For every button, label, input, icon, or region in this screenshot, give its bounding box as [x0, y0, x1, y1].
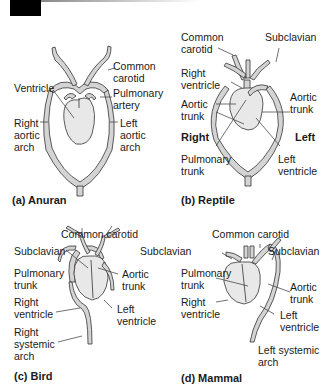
label-anuran-ventricle: Ventricle — [14, 82, 54, 94]
caption-bird: (c) Bird — [14, 370, 53, 382]
label-reptile-right-ventricle: Right ventricle — [181, 67, 220, 91]
label-anuran-common-carotid: Common carotid — [113, 60, 156, 84]
caption-mammal: (d) Mammal — [181, 372, 242, 384]
label-anuran-right-aortic-arch: Right aortic arch — [14, 117, 40, 153]
label-mammal-subclavian: Subclavian — [268, 245, 319, 257]
label-mammal-left-systemic-arch: Left systemic arch — [258, 344, 319, 368]
label-mammal-pulmonary-trunk: Pulmonary trunk — [181, 267, 231, 291]
label-anuran-pulmonary-artery: Pulmonary artery — [113, 87, 163, 111]
label-reptile-common-carotid: Common carotid — [181, 31, 224, 55]
label-mammal-aortic-trunk: Aortic trunk — [290, 281, 317, 305]
label-mammal-right-ventricle: Right ventricle — [181, 296, 220, 320]
label-mammal-left-ventricle: Left ventricle — [280, 309, 319, 333]
label-bird-right-systemic-arch: Right systemic arch — [14, 326, 55, 362]
caption-reptile: (b) Reptile — [181, 194, 235, 206]
label-reptile-subclavian: Subclavian — [265, 31, 316, 43]
label-reptile-left-ventricle: Left ventricle — [278, 153, 317, 177]
label-reptile-side-right: Right — [181, 131, 209, 143]
bird-heart-diagram — [58, 226, 120, 344]
label-bird-subclavian-right: Subclavian — [140, 245, 191, 257]
label-bird-common-carotid: Common carotid — [61, 228, 138, 240]
label-bird-right-ventricle: Right ventricle — [14, 296, 53, 320]
label-bird-left-ventricle: Left ventricle — [117, 303, 156, 327]
anuran-heart-diagram — [44, 46, 115, 196]
label-reptile-aortic-trunk-right: Aortic trunk — [290, 91, 317, 115]
label-anuran-left-aortic-arch: Left aortic arch — [120, 117, 146, 153]
label-reptile-pulmonary-trunk: Pulmonary trunk — [181, 153, 231, 177]
label-bird-subclavian-left: Subclavian — [14, 245, 65, 257]
caption-anuran: (a) Anuran — [12, 194, 67, 206]
label-mammal-common-carotid: Common carotid — [212, 228, 289, 240]
label-reptile-aortic-trunk-left: Aortic trunk — [181, 98, 208, 122]
label-bird-pulmonary-trunk: Pulmonary trunk — [14, 267, 64, 291]
label-reptile-side-left: Left — [295, 131, 315, 143]
label-bird-aortic-trunk: Aortic trunk — [122, 268, 149, 292]
